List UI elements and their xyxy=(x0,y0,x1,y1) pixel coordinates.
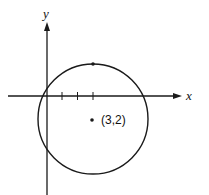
x-axis-arrow-icon xyxy=(173,93,182,99)
y-axis-label: y xyxy=(41,6,49,21)
center-point xyxy=(90,118,94,122)
y-axis-arrow-icon xyxy=(44,22,50,31)
coordinate-diagram: x y (3,2) xyxy=(0,0,209,195)
center-label: (3,2) xyxy=(101,113,126,127)
x-axis-label: x xyxy=(185,88,192,103)
top-point xyxy=(91,62,95,66)
